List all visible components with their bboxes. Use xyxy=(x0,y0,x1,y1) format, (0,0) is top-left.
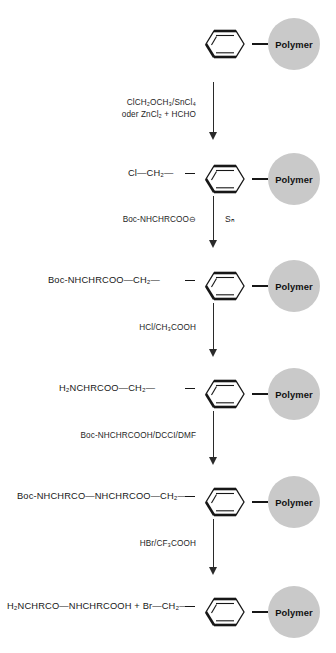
reagent-line-2a: Boc-NHCHRCOO⊖ xyxy=(41,214,196,226)
bond-ring-to-polymer xyxy=(252,501,268,502)
benzene-ring xyxy=(192,592,252,632)
reaction-arrow-5 xyxy=(207,519,221,575)
reagent-line-1a: ClCH₂OCH₃/SnCl₄ xyxy=(41,97,196,109)
bond-chain-to-ring xyxy=(185,606,195,607)
polymer-bead: Polymer xyxy=(268,153,320,205)
polymer-bead: Polymer xyxy=(268,260,320,312)
polymer-bead: Polymer xyxy=(268,476,320,528)
reagent-label-4: Boc-NHCHRCOOH/DCCI/DMF xyxy=(31,430,196,442)
bond-chain-to-ring xyxy=(185,496,195,497)
structure-left-formula: Boc-NHCHRCO—NHCHRCOO—CH₂— xyxy=(17,492,187,501)
polymer-bead-label: Polymer xyxy=(275,39,313,50)
scheme-row-cleaved-product: Polymer H₂NCHRCO—NHCHRCOOH + Br—CH₂— xyxy=(0,578,336,634)
benzene-ring xyxy=(192,374,252,414)
reagent-line-3a: HCl/CH₃COOH xyxy=(41,322,196,334)
bond-ring-to-polymer xyxy=(252,43,268,44)
reagent-line-5a: HBr/CF₃COOH xyxy=(41,538,196,550)
reagent-line-4a: Boc-NHCHRCOOH/DCCI/DMF xyxy=(31,430,196,442)
bond-ring-to-polymer xyxy=(252,285,268,286)
structure-left-formula: Boc-NHCHRCOO—CH₂— xyxy=(48,276,160,285)
structure-left-formula: H₂NCHRCOO—CH₂— xyxy=(59,384,155,393)
scheme-row-dipeptide-resin: Polymer Boc-NHCHRCO—NHCHRCOO—CH₂— xyxy=(0,468,336,524)
reagent-label-2: Boc-NHCHRCOO⊖ xyxy=(41,214,196,226)
scheme-row-polystyrene: Polymer xyxy=(0,10,336,66)
structure-left-formula: Cl—CH₂— xyxy=(128,169,173,178)
polymer-bead-label: Polymer xyxy=(275,389,313,400)
benzene-ring xyxy=(192,159,252,199)
bond-chain-to-ring xyxy=(185,388,195,389)
scheme-row-chloromethylated: Polymer Cl—CH₂— xyxy=(0,145,336,201)
bond-chain-to-ring xyxy=(185,280,195,281)
reagent-label-3: HCl/CH₃COOH xyxy=(41,322,196,334)
polymer-bead-label: Polymer xyxy=(275,607,313,618)
mechanism-label-sn: Sₙ xyxy=(225,214,235,224)
polymer-bead-label: Polymer xyxy=(275,174,313,185)
bond-chain-to-ring xyxy=(185,173,195,174)
benzene-ring xyxy=(192,24,252,64)
reagent-line-1b: oder ZnCl₂ + HCHO xyxy=(41,109,196,121)
reaction-arrow-4 xyxy=(207,411,221,465)
benzene-ring xyxy=(192,482,252,522)
benzene-ring xyxy=(192,266,252,306)
bond-ring-to-polymer xyxy=(252,393,268,394)
reagent-label-1: ClCH₂OCH₃/SnCl₄ oder ZnCl₂ + HCHO xyxy=(41,97,196,121)
polymer-bead: Polymer xyxy=(268,368,320,420)
polymer-bead-label: Polymer xyxy=(275,497,313,508)
bond-ring-to-polymer xyxy=(252,611,268,612)
reaction-arrow-1 xyxy=(207,82,221,140)
scheme-row-boc-ester: Polymer Boc-NHCHRCOO—CH₂— xyxy=(0,252,336,308)
polymer-bead-label: Polymer xyxy=(275,281,313,292)
polymer-bead: Polymer xyxy=(268,18,320,70)
reaction-arrow-3 xyxy=(207,303,221,357)
polymer-bead: Polymer xyxy=(268,586,320,638)
reagent-label-5: HBr/CF₃COOH xyxy=(41,538,196,550)
reaction-arrow-2 xyxy=(207,196,221,248)
bond-ring-to-polymer xyxy=(252,178,268,179)
scheme-row-free-amine: Polymer H₂NCHRCOO—CH₂— xyxy=(0,360,336,416)
structure-left-formula: H₂NCHRCO—NHCHRCOOH + Br—CH₂— xyxy=(7,602,189,611)
